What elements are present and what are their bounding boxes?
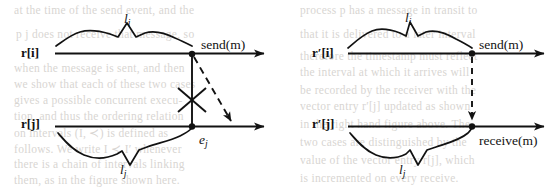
right-axis-label-ri: r′[i] bbox=[312, 46, 334, 59]
left-interval-label-j: lj bbox=[120, 163, 126, 178]
left-axis-label-rj: r[j] bbox=[21, 117, 40, 130]
right-interval-label-j: lj bbox=[399, 163, 405, 178]
right-receive-event-dot bbox=[469, 123, 475, 129]
right-axis-label-rj: r′[j] bbox=[312, 117, 334, 130]
left-axis-label-ri: r[i] bbox=[21, 46, 39, 59]
left-interval-curve-j bbox=[58, 128, 192, 165]
left-ej-event-dot bbox=[189, 123, 195, 129]
left-message-dashed-arrow bbox=[194, 57, 231, 121]
left-interval-label-i: li bbox=[124, 12, 130, 27]
figure-drawing bbox=[0, 0, 556, 190]
right-interval-curve-j bbox=[350, 128, 472, 165]
right-send-event-dot bbox=[469, 50, 475, 56]
right-send-event-label: send(m) bbox=[479, 38, 523, 52]
right-interval-label-i: li bbox=[405, 11, 411, 26]
figure-root: at the time of the send event, and thepr… bbox=[0, 0, 556, 190]
left-send-event-label: send(m) bbox=[201, 38, 245, 52]
right-receive-event-label: receive(m) bbox=[479, 134, 537, 148]
left-send-event-dot bbox=[189, 51, 195, 57]
left-ej-event-label: ej bbox=[199, 133, 208, 148]
